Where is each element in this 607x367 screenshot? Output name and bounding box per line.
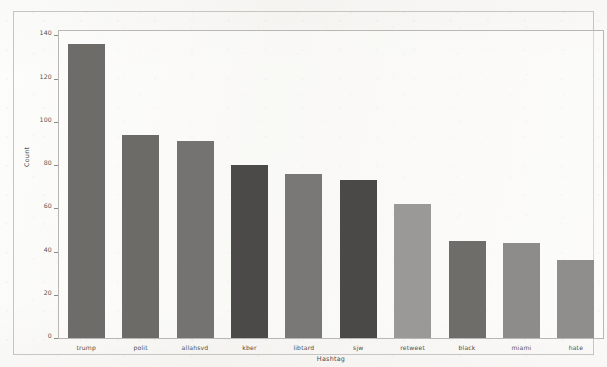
x-axis-tick: allahsvd [168, 339, 222, 355]
x-axis-tick: miami [494, 339, 548, 355]
x-axis-label: Hashtag [59, 355, 603, 363]
y-axis-tick-label: 20 [44, 290, 52, 296]
bar-slot [277, 31, 331, 338]
y-axis-tick-label: 80 [44, 160, 52, 166]
y-axis-tick-label: 120 [40, 74, 52, 80]
x-axis-tick: hate [549, 339, 603, 355]
bar-slot [440, 31, 494, 338]
figure-frame: 020406080100120140 Count trumppolitallah… [13, 11, 594, 355]
x-axis-tick-label: libtard [277, 345, 331, 351]
bar[interactable] [285, 174, 322, 338]
x-axis-tick: sjw [331, 339, 385, 355]
bar-slot [59, 31, 113, 338]
bar-slot [494, 31, 548, 338]
bar[interactable] [503, 243, 540, 338]
x-axis-tick: retweet [385, 339, 439, 355]
x-axis-tick-label: trump [59, 345, 113, 351]
x-axis-tick-label: allahsvd [168, 345, 222, 351]
bar[interactable] [449, 241, 486, 338]
bar[interactable] [122, 135, 159, 338]
bar-slot [168, 31, 222, 338]
x-axis-tick: trump [59, 339, 113, 355]
bar-slot [385, 31, 439, 338]
chart-page: 020406080100120140 Count trumppolitallah… [0, 0, 607, 367]
x-axis-tick-label: kber [222, 345, 276, 351]
x-axis-tick: libtard [277, 339, 331, 355]
x-axis-tick: black [440, 339, 494, 355]
y-axis-tick-label: 140 [40, 30, 52, 36]
x-axis-tick: kber [222, 339, 276, 355]
bar-series [59, 31, 603, 338]
y-axis-tick-label: 100 [40, 117, 52, 123]
y-axis: 020406080100120140 [14, 30, 58, 339]
x-axis-tick-label: black [440, 345, 494, 351]
x-axis-tick-label: miami [494, 345, 548, 351]
bar[interactable] [340, 180, 377, 338]
y-axis-tick-label: 60 [44, 203, 52, 209]
x-axis-tick: polit [113, 339, 167, 355]
bar-slot [549, 31, 603, 338]
bar-slot [113, 31, 167, 338]
bar[interactable] [557, 260, 594, 338]
y-axis-tick-label: 0 [48, 333, 52, 339]
bar-slot [222, 31, 276, 338]
bar[interactable] [68, 44, 105, 338]
x-axis: trumppolitallahsvdkberlibtardsjwretweetb… [59, 339, 603, 355]
y-axis-tick-label: 40 [44, 247, 52, 253]
x-axis-tick-label: hate [549, 345, 603, 351]
bar[interactable] [394, 204, 431, 338]
bar[interactable] [231, 165, 268, 338]
bar[interactable] [177, 141, 214, 338]
x-axis-tick-label: sjw [331, 345, 385, 351]
x-axis-tick-label: retweet [385, 345, 439, 351]
bar-slot [331, 31, 385, 338]
x-axis-tick-label: polit [113, 345, 167, 351]
y-axis-label: Count [23, 147, 31, 167]
